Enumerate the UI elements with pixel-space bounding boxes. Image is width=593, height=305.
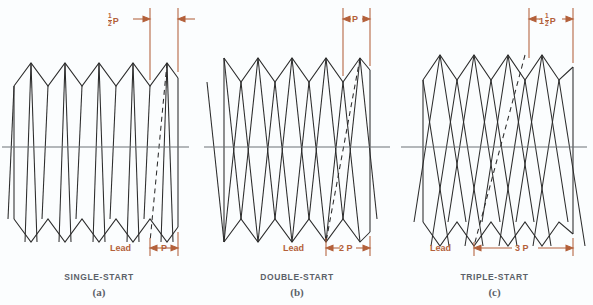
flank-line-opposing bbox=[499, 80, 525, 246]
flank-line bbox=[76, 86, 82, 219]
fraction-denominator: 2 bbox=[108, 21, 113, 28]
flank-line bbox=[110, 86, 116, 219]
flank-line bbox=[292, 58, 309, 219]
fraction-half: 1 2 bbox=[108, 13, 113, 27]
flank-line bbox=[525, 80, 551, 246]
caption-title-b: DOUBLE-START bbox=[198, 272, 396, 282]
caption-title-c: TRIPLE-START bbox=[396, 272, 593, 282]
flank-line-back bbox=[275, 82, 292, 242]
flank-line bbox=[508, 55, 534, 222]
flank-line-opposing bbox=[448, 55, 474, 222]
flank-line-opposing bbox=[516, 55, 542, 222]
flank-line bbox=[423, 80, 449, 246]
flank-line-opposing bbox=[258, 82, 275, 242]
flank-line bbox=[360, 58, 377, 219]
flank-line bbox=[224, 58, 241, 219]
bottom-dimension-label-c: 3 P bbox=[515, 243, 529, 253]
crest-line-top bbox=[14, 63, 178, 86]
flank-line-opposing bbox=[224, 82, 241, 242]
mixed-whole: 1 bbox=[539, 16, 544, 26]
flank-line bbox=[258, 58, 275, 219]
flank-line-back bbox=[133, 63, 139, 242]
flank-line-back bbox=[309, 82, 326, 242]
flank-line-back bbox=[99, 63, 105, 242]
flank-line bbox=[542, 55, 568, 222]
flank-line bbox=[559, 80, 585, 246]
flank-line-back bbox=[241, 82, 258, 242]
panel-single-start: 1 2 P Lead P SINGLE-START (a) bbox=[0, 0, 198, 305]
flank-line-back bbox=[207, 82, 224, 242]
lead-label-b: Lead bbox=[283, 243, 304, 253]
fraction-half: 1 2 bbox=[545, 13, 550, 27]
top-dimension-label-c: 1 1 2 P bbox=[539, 13, 556, 27]
flank-line-back bbox=[65, 63, 71, 242]
dimension-unit: P bbox=[113, 16, 119, 26]
caption-letter-c: (c) bbox=[396, 286, 593, 298]
flank-line bbox=[491, 80, 517, 246]
flank-line-opposing bbox=[482, 55, 508, 222]
caption-letter-a: (a) bbox=[0, 286, 198, 298]
flank-line-opposing bbox=[533, 80, 559, 246]
bottom-dimension-label-b: 2 P bbox=[339, 243, 353, 253]
lead-label-c: Lead bbox=[430, 243, 451, 253]
panel-a-drawing bbox=[0, 0, 198, 305]
caption-title-a: SINGLE-START bbox=[0, 272, 198, 282]
flank-line-opposing bbox=[465, 80, 491, 246]
flank-line-opposing bbox=[414, 55, 440, 222]
crest-line-top bbox=[224, 58, 370, 82]
flank-line-back bbox=[167, 63, 173, 242]
flank-line bbox=[25, 63, 31, 242]
panel-b-drawing bbox=[198, 0, 396, 305]
flank-line-opposing bbox=[309, 58, 326, 219]
flank-line bbox=[144, 86, 150, 219]
flank-line-opposing bbox=[326, 82, 343, 242]
top-dimension-label-a: 1 2 P bbox=[107, 13, 119, 27]
flank-line bbox=[127, 63, 133, 242]
bottom-dimension-label-a: P bbox=[161, 243, 167, 253]
flank-line bbox=[42, 86, 48, 219]
flank-line-opposing bbox=[275, 58, 292, 219]
root-line-bottom bbox=[14, 219, 178, 242]
flank-line-opposing bbox=[431, 80, 457, 246]
panel-c-drawing bbox=[396, 0, 593, 305]
panel-triple-start: 1 1 2 P Lead 3 P TRIPLE-START (c) bbox=[396, 0, 593, 305]
top-dimension-label-b: P bbox=[352, 14, 358, 24]
flank-line-opposing bbox=[292, 82, 309, 242]
flank-line bbox=[440, 55, 466, 222]
flank-line-back bbox=[31, 63, 37, 242]
flank-line bbox=[59, 63, 65, 242]
panel-double-start: P Lead 2 P DOUBLE-START (b) bbox=[198, 0, 396, 305]
crest-line-top bbox=[423, 55, 573, 80]
lead-label-a: Lead bbox=[110, 243, 131, 253]
fraction-denominator: 2 bbox=[545, 21, 550, 28]
root-line-bottom bbox=[224, 219, 370, 242]
top-dimension-arrows bbox=[133, 16, 195, 21]
thread-diagram-figure: 1 2 P Lead P SINGLE-START (a) bbox=[0, 0, 593, 305]
flank-line bbox=[93, 63, 99, 242]
flank-line bbox=[8, 86, 14, 219]
flank-line bbox=[457, 80, 483, 246]
flank-line-opposing bbox=[241, 58, 258, 219]
caption-letter-b: (b) bbox=[198, 286, 396, 298]
dimension-unit: P bbox=[550, 16, 556, 26]
